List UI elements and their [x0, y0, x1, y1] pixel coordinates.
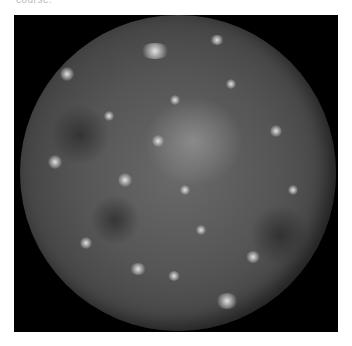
photo-frame: [14, 15, 338, 332]
dark-region: [50, 105, 110, 165]
bright-crater: [226, 79, 236, 89]
bright-crater: [168, 271, 180, 281]
bright-crater: [216, 293, 238, 309]
bright-crater: [130, 263, 146, 275]
bright-crater: [118, 173, 132, 187]
bright-crater: [210, 35, 224, 45]
moon-disk: [20, 15, 336, 331]
bright-crater: [152, 135, 164, 147]
bright-crater: [80, 237, 92, 249]
bright-crater: [60, 67, 74, 81]
caption-fragment: course.: [16, 0, 52, 5]
bright-crater: [196, 225, 206, 235]
bright-crater: [180, 185, 190, 195]
bright-crater: [270, 125, 282, 137]
bright-crater: [140, 43, 170, 59]
bright-crater: [288, 185, 298, 195]
dark-region: [250, 205, 310, 265]
bright-crater: [170, 95, 180, 105]
dark-region: [90, 195, 140, 245]
